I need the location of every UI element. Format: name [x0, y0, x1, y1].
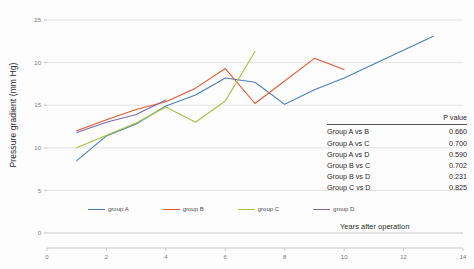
y-tick-label: 5 — [38, 188, 42, 194]
table-row: Group C vs D0.825 — [327, 182, 467, 193]
legend-swatch-icon — [163, 209, 180, 210]
pvalue-value: 0.660 — [417, 126, 467, 137]
legend-label: group C — [258, 206, 279, 212]
legend-item-group-d[interactable]: group D — [313, 206, 354, 212]
x-axis-title-label: Years after operation — [340, 222, 409, 231]
y-tick-label: 10 — [34, 145, 41, 151]
y-tick-label: 20 — [34, 60, 41, 66]
x-tick-label: 8 — [283, 254, 287, 260]
pvalue-table: P valueGroup A vs B0.660Group A vs C0.70… — [327, 112, 467, 194]
y-tick-label: 0 — [38, 230, 42, 236]
pvalue-header-label: P value — [417, 112, 467, 123]
pvalue-value: 0.590 — [417, 149, 467, 160]
pvalue-value: 0.702 — [417, 160, 467, 171]
line-chart: Pressure gradient (mm Hg) 05101520250246… — [0, 0, 474, 269]
x-tick-label: 0 — [45, 254, 49, 260]
pvalue-header-row: P value — [327, 112, 467, 123]
y-tick-label: 15 — [34, 102, 41, 108]
legend-label: group B — [183, 206, 204, 212]
pvalue-pair-label: Group A vs C — [327, 138, 417, 149]
chart-legend: group Agroup Bgroup Cgroup D — [88, 206, 354, 212]
x-tick-label: 6 — [224, 254, 228, 260]
divider — [327, 124, 467, 125]
table-row: Group A vs B0.660 — [327, 126, 467, 137]
table-row: Group A vs C0.700 — [327, 138, 467, 149]
pvalue-pair-label: Group B vs D — [327, 171, 417, 182]
pvalue-pair-label: Group C vs D — [327, 182, 417, 193]
pvalue-pair-label: Group B vs C — [327, 160, 417, 171]
legend-swatch-icon — [238, 209, 255, 210]
pvalue-pair-label: Group A vs D — [327, 149, 417, 160]
x-tick-label: 14 — [460, 254, 467, 260]
legend-swatch-icon — [88, 209, 105, 210]
pvalue-pair-label: Group A vs B — [327, 126, 417, 137]
y-tick-label: 25 — [34, 17, 41, 23]
table-row: Group B vs C0.702 — [327, 160, 467, 171]
table-row: Group A vs D0.590 — [327, 149, 467, 160]
pvalue-value: 0.700 — [417, 138, 467, 149]
table-row: Group B vs D0.231 — [327, 171, 467, 182]
x-tick-label: 12 — [400, 254, 407, 260]
x-tick-label: 4 — [164, 254, 168, 260]
pvalue-header-blank — [327, 112, 417, 123]
legend-label: group A — [108, 206, 129, 212]
x-axis-title: Years after operation — [340, 222, 409, 231]
pvalue-value: 0.825 — [417, 182, 467, 193]
x-tick-label: 2 — [105, 254, 109, 260]
pvalue-value: 0.231 — [417, 171, 467, 182]
legend-label: group D — [333, 206, 354, 212]
legend-item-group-c[interactable]: group C — [238, 206, 279, 212]
x-tick-label: 10 — [341, 254, 348, 260]
legend-swatch-icon — [313, 209, 330, 210]
legend-item-group-b[interactable]: group B — [163, 206, 204, 212]
legend-item-group-a[interactable]: group A — [88, 206, 129, 212]
